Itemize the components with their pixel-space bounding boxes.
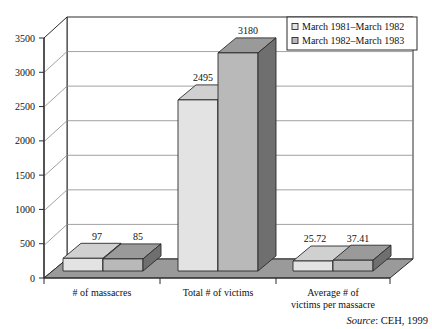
bar-group-average xyxy=(293,245,391,271)
legend-swatch-series1 xyxy=(292,24,298,30)
bar-s2-average-front xyxy=(333,260,373,271)
y-tick-label-3500: 3500 xyxy=(15,33,35,44)
chart-canvas: 0 500 1000 1500 2000 2500 3000 3500 97 8… xyxy=(0,0,432,329)
plot-left-wall xyxy=(44,17,67,278)
value-label-s1-total: 2495 xyxy=(193,72,213,83)
y-tick-label-0: 0 xyxy=(30,273,35,284)
legend-label-series2: March 1982–March 1983 xyxy=(302,35,404,46)
x-category-label-average-line1: Average # of xyxy=(307,287,359,298)
value-label-s1-massacres: 97 xyxy=(92,231,102,242)
legend-swatch-series2 xyxy=(292,38,298,44)
legend: March 1981–March 1982 March 1982–March 1… xyxy=(287,17,417,50)
x-category-label-average-line2: victims per massacre xyxy=(291,299,375,310)
source-note: Source: CEH, 1999 xyxy=(346,315,428,326)
y-tick-label-500: 500 xyxy=(20,238,35,249)
y-axis-ticks xyxy=(39,38,44,278)
bar-s1-massacres-front xyxy=(63,258,103,271)
y-tick-label-2000: 2000 xyxy=(15,135,35,146)
bar-s1-total-front xyxy=(178,100,218,271)
bar-chart-figure: 0 500 1000 1500 2000 2500 3000 3500 97 8… xyxy=(0,0,432,329)
y-tick-label-1500: 1500 xyxy=(15,170,35,181)
source-note-prefix: Source xyxy=(346,315,375,326)
y-tick-label-3000: 3000 xyxy=(15,67,35,78)
x-category-label-total-victims: Total # of victims xyxy=(183,287,254,298)
value-label-s2-massacres: 85 xyxy=(133,231,143,242)
legend-label-series1: March 1981–March 1982 xyxy=(302,21,404,32)
y-tick-label-2500: 2500 xyxy=(15,101,35,112)
x-category-label-massacres: # of massacres xyxy=(73,287,132,298)
value-label-s2-average: 37.41 xyxy=(347,233,370,244)
source-note-text: : CEH, 1999 xyxy=(375,315,428,326)
value-label-s1-average: 25.72 xyxy=(304,233,327,244)
bar-s2-total-front xyxy=(218,53,258,271)
bar-s1-average-front xyxy=(293,261,333,271)
bar-s2-total-side xyxy=(258,38,276,271)
value-label-s2-total: 3180 xyxy=(238,25,258,36)
x-axis-ticks xyxy=(44,278,390,284)
bar-s2-massacres-front xyxy=(103,259,143,271)
bar-group-massacres xyxy=(63,243,161,271)
y-tick-label-1000: 1000 xyxy=(15,204,35,215)
